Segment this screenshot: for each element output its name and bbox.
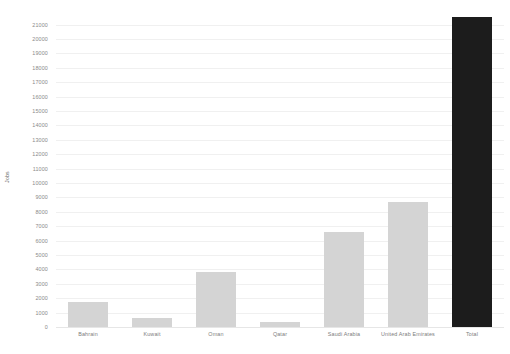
y-axis-tick-label: 18000 bbox=[32, 65, 48, 71]
bar-slot bbox=[376, 16, 440, 327]
y-axis-tick-labels: 0100020003000400050006000700080009000100… bbox=[0, 16, 52, 327]
y-axis-tick-label: 6000 bbox=[35, 238, 48, 244]
y-axis-tick-label: 7000 bbox=[35, 223, 48, 229]
bar-united-arab-emirates[interactable] bbox=[388, 202, 428, 327]
x-axis-tick-label: Saudi Arabia bbox=[328, 331, 360, 337]
bar-qatar[interactable] bbox=[260, 322, 300, 327]
y-axis-tick-label: 15000 bbox=[32, 108, 48, 114]
bar-slot bbox=[440, 16, 504, 327]
bar-oman[interactable] bbox=[196, 272, 236, 327]
y-axis-tick-label: 20000 bbox=[32, 36, 48, 42]
bar-total[interactable] bbox=[452, 17, 492, 327]
bar-saudi-arabia[interactable] bbox=[324, 232, 364, 327]
y-axis-tick-label: 12000 bbox=[32, 151, 48, 157]
x-axis-tick-labels: BahrainKuwaitOmanQatarSaudi ArabiaUnited… bbox=[56, 331, 504, 345]
x-axis-tick-label: Total bbox=[466, 331, 478, 337]
bar-kuwait[interactable] bbox=[132, 318, 172, 327]
bar-slot bbox=[120, 16, 184, 327]
bar-chart: Jobs 01000200030004000500060007000800090… bbox=[0, 0, 510, 354]
y-axis-tick-label: 17000 bbox=[32, 79, 48, 85]
y-axis-tick-label: 13000 bbox=[32, 137, 48, 143]
y-axis-tick-label: 1000 bbox=[35, 310, 48, 316]
x-axis-tick-label: Qatar bbox=[273, 331, 287, 337]
bar-slot bbox=[56, 16, 120, 327]
y-axis-tick-label: 11000 bbox=[33, 166, 48, 172]
y-axis-tick-label: 19000 bbox=[32, 50, 48, 56]
x-axis-tick-label: Bahrain bbox=[78, 331, 98, 337]
x-axis-tick-label: Kuwait bbox=[143, 331, 160, 337]
y-axis-tick-label: 0 bbox=[45, 324, 48, 330]
x-axis-tick-label: Oman bbox=[208, 331, 223, 337]
bar-slot bbox=[184, 16, 248, 327]
plot-area bbox=[56, 16, 504, 327]
gridline bbox=[56, 327, 504, 328]
bars-layer bbox=[56, 16, 504, 327]
y-axis-tick-label: 10000 bbox=[32, 180, 48, 186]
y-axis-tick-label: 2000 bbox=[35, 295, 48, 301]
bar-slot bbox=[248, 16, 312, 327]
bar-slot bbox=[312, 16, 376, 327]
bar-bahrain[interactable] bbox=[68, 302, 108, 327]
y-axis-tick-label: 16000 bbox=[32, 94, 48, 100]
x-axis-tick-label: United Arab Emirates bbox=[381, 331, 435, 337]
y-axis-tick-label: 5000 bbox=[35, 252, 48, 258]
y-axis-tick-label: 8000 bbox=[35, 209, 48, 215]
y-axis-tick-label: 14000 bbox=[32, 122, 48, 128]
y-axis-tick-label: 4000 bbox=[35, 266, 48, 272]
y-axis-tick-label: 21000 bbox=[32, 22, 48, 28]
y-axis-tick-label: 3000 bbox=[35, 281, 48, 287]
y-axis-tick-label: 9000 bbox=[35, 194, 48, 200]
